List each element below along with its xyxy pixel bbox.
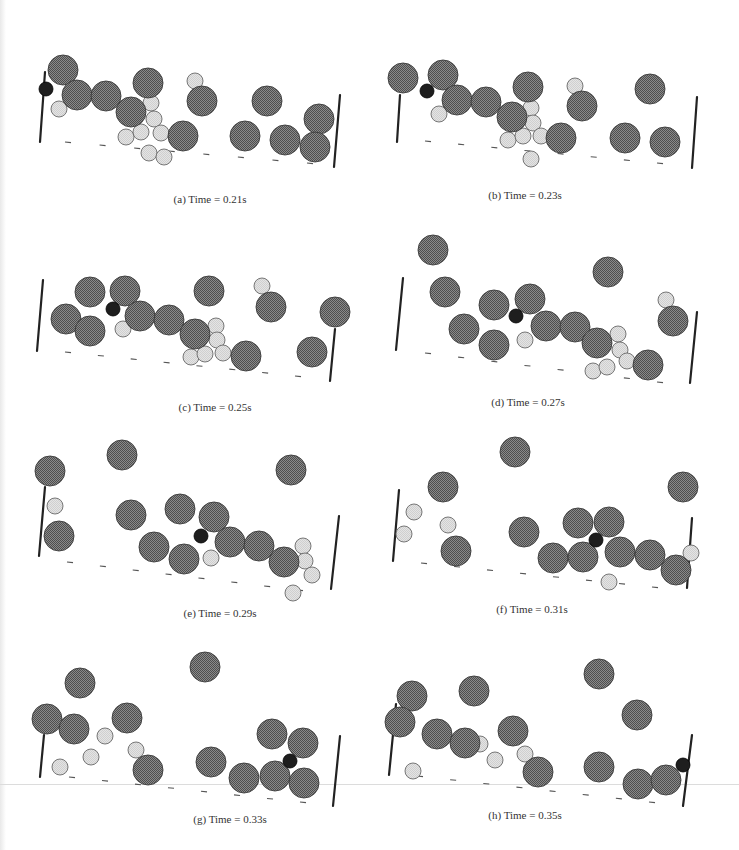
small-particle bbox=[610, 326, 626, 342]
large-particle bbox=[133, 68, 163, 98]
ground-dash bbox=[491, 361, 497, 362]
caption-panel-h: (h) Time = 0.35s bbox=[488, 809, 561, 821]
particle-simulation-figure bbox=[0, 0, 739, 850]
small-particle bbox=[500, 132, 516, 148]
large-particle bbox=[62, 80, 92, 110]
caption-panel-f: (f) Time = 0.31s bbox=[496, 603, 568, 615]
small-particle bbox=[156, 149, 172, 165]
small-particle bbox=[47, 498, 63, 514]
wall-line bbox=[330, 329, 335, 381]
ground-dash bbox=[550, 791, 556, 792]
large-particle bbox=[187, 86, 217, 116]
large-particle bbox=[584, 752, 614, 782]
large-particle bbox=[168, 121, 198, 151]
small-particle bbox=[585, 363, 601, 379]
ground-dash bbox=[295, 376, 301, 377]
large-particle bbox=[610, 123, 640, 153]
small-particle bbox=[517, 332, 533, 348]
tracer-particle bbox=[106, 302, 120, 316]
caption-panel-d: (d) Time = 0.27s bbox=[491, 396, 564, 408]
large-particle bbox=[385, 707, 415, 737]
ground-dash bbox=[454, 566, 460, 567]
wall-line bbox=[40, 735, 44, 777]
small-particle bbox=[285, 585, 301, 601]
large-particle bbox=[523, 757, 553, 787]
small-particle bbox=[619, 353, 635, 369]
large-particle bbox=[59, 714, 89, 744]
large-particle bbox=[661, 555, 691, 585]
ground-dash bbox=[619, 584, 625, 585]
large-particle bbox=[300, 132, 330, 162]
wall-line bbox=[334, 95, 340, 167]
tracer-particle bbox=[676, 758, 690, 772]
large-particle bbox=[584, 659, 614, 689]
large-particle bbox=[459, 676, 489, 706]
ground-dash bbox=[267, 798, 273, 799]
large-particle bbox=[304, 104, 334, 134]
ground-dash bbox=[131, 359, 137, 360]
large-particle bbox=[116, 500, 146, 530]
ground-dash bbox=[65, 142, 71, 143]
ground-dash bbox=[624, 378, 630, 379]
large-particle bbox=[633, 350, 663, 380]
wall-line bbox=[690, 312, 697, 383]
large-particle bbox=[32, 704, 62, 734]
large-particle bbox=[139, 532, 169, 562]
ground-dash bbox=[586, 580, 592, 581]
wall-line bbox=[393, 490, 399, 561]
ground-dash bbox=[553, 577, 559, 578]
ground-dash bbox=[524, 365, 530, 366]
large-particle bbox=[635, 74, 665, 104]
ground-dash bbox=[483, 783, 489, 784]
ground-dash bbox=[558, 154, 564, 155]
ground-dash bbox=[234, 795, 240, 796]
large-particle bbox=[450, 728, 480, 758]
ground-dash bbox=[100, 566, 106, 567]
large-particle bbox=[289, 768, 319, 798]
ground-dash bbox=[425, 353, 431, 354]
tracer-particle bbox=[283, 754, 297, 768]
small-particle bbox=[405, 763, 421, 779]
ground-dash bbox=[649, 802, 655, 803]
caption-panel-a: (a) Time = 0.21s bbox=[174, 193, 247, 205]
large-particle bbox=[500, 437, 530, 467]
large-particle bbox=[269, 547, 299, 577]
small-particle bbox=[601, 574, 617, 590]
ground-dash bbox=[229, 369, 235, 370]
large-particle bbox=[215, 527, 245, 557]
ground-dash bbox=[133, 570, 139, 571]
large-particle bbox=[479, 290, 509, 320]
small-particle bbox=[487, 752, 503, 768]
large-particle bbox=[418, 235, 448, 265]
large-particle bbox=[133, 755, 163, 785]
small-particle bbox=[183, 349, 199, 365]
large-particle bbox=[422, 719, 452, 749]
small-particle bbox=[440, 517, 456, 533]
small-particle bbox=[599, 359, 615, 375]
ground-dash bbox=[624, 160, 630, 161]
small-particle bbox=[83, 749, 99, 765]
caption-panel-c: (c) Time = 0.25s bbox=[179, 401, 252, 413]
ground-dash bbox=[583, 795, 589, 796]
ground-dash bbox=[168, 788, 174, 789]
ground-dash bbox=[166, 574, 172, 575]
ground-dash bbox=[450, 780, 456, 781]
ground-dash bbox=[231, 582, 237, 583]
large-particle bbox=[91, 81, 121, 111]
ground-dash bbox=[520, 573, 526, 574]
large-particle bbox=[65, 668, 95, 698]
wall-line bbox=[333, 736, 340, 806]
panel-c bbox=[37, 276, 350, 381]
ground-dash bbox=[487, 570, 493, 571]
ground-dash bbox=[491, 147, 497, 148]
small-particle bbox=[146, 111, 162, 127]
large-particle bbox=[593, 257, 623, 287]
large-particle bbox=[635, 540, 665, 570]
tracer-particle bbox=[420, 84, 434, 98]
large-particle bbox=[230, 121, 260, 151]
large-particle bbox=[229, 763, 259, 793]
small-particle bbox=[141, 145, 157, 161]
large-particle bbox=[668, 472, 698, 502]
ground-dash bbox=[425, 141, 431, 142]
large-particle bbox=[430, 277, 460, 307]
